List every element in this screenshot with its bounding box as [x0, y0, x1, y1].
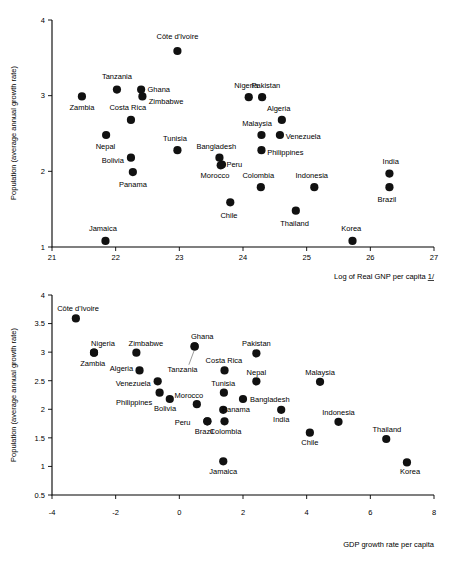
- x-tick-label: 21: [48, 253, 56, 262]
- data-point: [334, 418, 342, 426]
- x-tick-label: 4: [305, 508, 309, 517]
- data-point: [127, 116, 135, 124]
- data-point: [306, 429, 314, 437]
- x-tick-label: 23: [175, 253, 183, 262]
- data-point-label: Zambia: [80, 359, 106, 368]
- data-point: [403, 458, 411, 466]
- data-point-label: Zimbabwe: [149, 97, 184, 106]
- y-tick-label: 2: [41, 167, 45, 176]
- label-leader-line: [189, 351, 194, 365]
- data-point: [138, 92, 146, 100]
- data-point-label: Brazil: [195, 427, 214, 436]
- x-tick-label: 22: [111, 253, 119, 262]
- data-point: [173, 146, 181, 154]
- data-point-label: Tunisia: [163, 134, 188, 143]
- data-point: [220, 366, 228, 374]
- data-point: [310, 183, 318, 191]
- y-tick-label: 0.5: [35, 491, 45, 500]
- data-point: [132, 349, 140, 357]
- data-point-label: Tanzania: [102, 72, 133, 81]
- data-point: [258, 93, 266, 101]
- data-point-label: Brazil: [378, 195, 397, 204]
- y-tick-label: 2.5: [35, 377, 45, 386]
- y-tick-label: 2: [41, 405, 45, 414]
- data-point-label: Algeria: [267, 104, 291, 113]
- y-tick-label: 1: [41, 243, 45, 252]
- data-point-label: Venezuela: [286, 132, 322, 141]
- data-point-label: Morocco: [175, 391, 204, 400]
- data-point-label: Morocco: [201, 171, 230, 180]
- data-point: [278, 116, 286, 124]
- data-point-label: Nepal: [96, 142, 116, 151]
- data-point-label: Pakistan: [252, 81, 281, 90]
- y-tick-label: 4: [41, 291, 45, 300]
- y-axis-title: Population (average annual growth rate): [9, 328, 18, 462]
- x-tick-label: 24: [239, 253, 247, 262]
- data-point-label: Pakistan: [242, 339, 271, 348]
- data-point: [245, 93, 253, 101]
- data-point-label: Nigeria: [91, 339, 116, 348]
- data-point: [276, 131, 284, 139]
- data-point: [277, 406, 285, 414]
- data-point-label: Costa Rica: [206, 356, 244, 365]
- data-point: [90, 349, 98, 357]
- data-point: [203, 417, 211, 425]
- data-point-label: Peru: [175, 418, 191, 427]
- data-point-label: Ghana: [148, 85, 171, 94]
- data-point-label: Panama: [119, 180, 148, 189]
- x-tick-label: -2: [112, 508, 119, 517]
- data-point: [385, 183, 393, 191]
- data-point: [385, 170, 393, 178]
- data-point: [127, 154, 135, 162]
- y-tick-label: 1.5: [35, 434, 45, 443]
- top-scatter-plot: 212223242526271234Population (average an…: [0, 0, 451, 290]
- data-point-label: India: [383, 157, 400, 166]
- data-point-label: Ghana: [191, 332, 214, 341]
- data-point-label: Costa Rica: [109, 103, 147, 112]
- data-point: [191, 342, 199, 350]
- data-point: [257, 146, 265, 154]
- data-point-label: Korea: [341, 224, 362, 233]
- data-point: [219, 457, 227, 465]
- bottom-scatter-figure: -4-2024680.511.522.533.54Population (ave…: [0, 285, 451, 573]
- data-point-label: Korea: [400, 467, 421, 476]
- data-point: [257, 131, 265, 139]
- data-point-label: Jamaica: [209, 467, 238, 476]
- data-point-label: Indonesia: [322, 408, 355, 417]
- data-point: [72, 314, 80, 322]
- data-point-label: Bangladesh: [196, 142, 236, 151]
- x-axis-title: GDP growth rate per capita: [343, 540, 435, 549]
- data-point-label: Colombia: [210, 427, 243, 436]
- data-point: [316, 378, 324, 386]
- data-point-label: Tunisia: [211, 379, 236, 388]
- data-point: [220, 417, 228, 425]
- data-point: [292, 207, 300, 215]
- data-point: [252, 377, 260, 385]
- data-point-label: Philippines: [116, 398, 153, 407]
- data-point-label: Zimbabwe: [129, 339, 164, 348]
- data-point: [154, 377, 162, 385]
- data-point-label: Philippines: [267, 148, 304, 157]
- data-point: [155, 389, 163, 397]
- data-point-label: Chile: [220, 211, 237, 220]
- data-point-label: Bolivia: [154, 404, 177, 413]
- y-tick-label: 4: [41, 16, 45, 25]
- x-axis-title: Log of Real GNP per capita 1/: [334, 272, 435, 281]
- y-tick-label: 3: [41, 91, 45, 100]
- data-point: [193, 400, 201, 408]
- data-point: [166, 395, 174, 403]
- x-tick-label: 2: [241, 508, 245, 517]
- data-point-label: Thailand: [280, 219, 309, 228]
- data-point-label: Thailand: [372, 425, 401, 434]
- data-point-label: Peru: [226, 160, 242, 169]
- data-point: [102, 131, 110, 139]
- x-tick-label: 27: [430, 253, 438, 262]
- data-point: [113, 86, 121, 94]
- top-scatter-figure: 212223242526271234Population (average an…: [0, 0, 451, 290]
- data-point-label: Bangladesh: [250, 395, 290, 404]
- data-point-label: Venezuela: [116, 379, 152, 388]
- data-point-label: Colombia: [242, 171, 275, 180]
- data-point: [137, 86, 145, 94]
- data-point: [78, 92, 86, 100]
- y-tick-label: 3.5: [35, 319, 45, 328]
